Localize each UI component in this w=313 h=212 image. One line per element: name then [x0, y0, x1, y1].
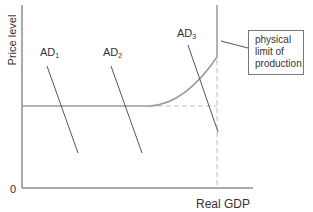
annotation-line-2: limit of: [255, 46, 303, 58]
ad3-label: AD3: [177, 28, 196, 40]
ad3-label-main: AD: [177, 27, 192, 39]
ad1-label-main: AD: [40, 46, 55, 58]
annotation-line-3: production: [255, 58, 303, 70]
ad1-label: AD1: [40, 47, 59, 59]
ad2-label: AD2: [103, 47, 122, 59]
origin-label: 0: [10, 184, 16, 195]
ad2-label-sub: 2: [118, 52, 122, 59]
annotation-line-1: physical: [255, 34, 303, 46]
ad1-line: [47, 66, 78, 153]
ad2-line: [111, 66, 142, 153]
ad3-label-sub: 3: [192, 33, 196, 40]
physical-limit-annotation: physical limit of production: [248, 30, 304, 75]
ad-as-diagram: Price level AD1 AD2 AD3 physical limit o…: [0, 0, 313, 212]
ad1-label-sub: 1: [55, 52, 59, 59]
annotation-connector: [221, 41, 248, 48]
y-axis-label: Price level: [6, 14, 18, 66]
ad3-line: [188, 45, 218, 132]
x-axis-label: Real GDP: [196, 198, 250, 210]
ad2-label-main: AD: [103, 46, 118, 58]
